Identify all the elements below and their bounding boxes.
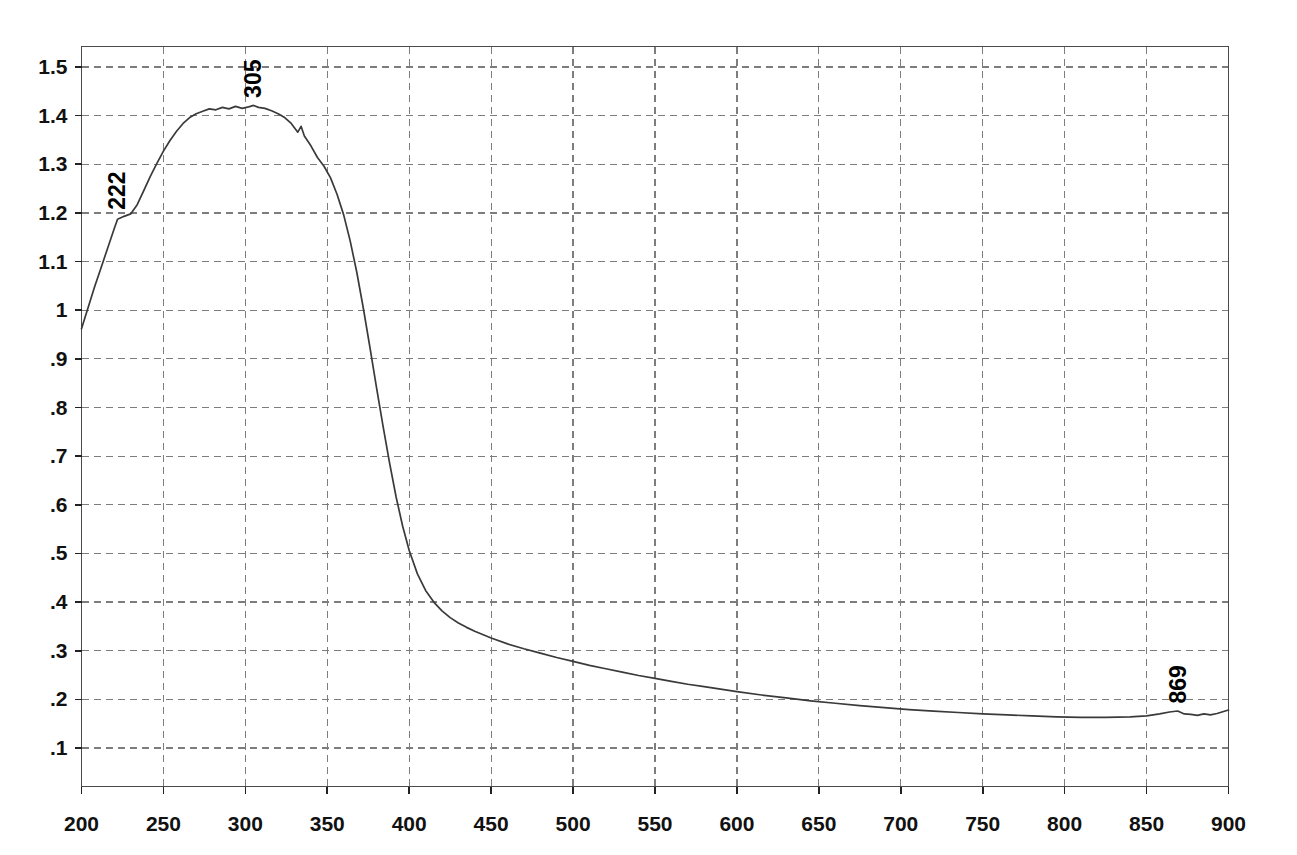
x-tick-label-750: 750: [965, 812, 1000, 835]
x-tick-label-500: 500: [556, 812, 591, 835]
x-tick-label-200: 200: [64, 812, 99, 835]
y-tick-label-1.2: 1.2: [38, 201, 67, 224]
y-tick-label-1.4: 1.4: [38, 104, 68, 127]
x-tick-label-350: 350: [310, 812, 345, 835]
y-tick-label-.6: .6: [50, 493, 68, 516]
y-tick-label-1.5: 1.5: [38, 55, 68, 78]
x-tick-label-900: 900: [1211, 812, 1246, 835]
x-tick-label-850: 850: [1129, 812, 1164, 835]
x-tick-label-450: 450: [474, 812, 509, 835]
spectrum-page: 2002503003504004505005506006507007508008…: [0, 0, 1297, 855]
x-tick-label-250: 250: [146, 812, 181, 835]
x-axis-tick-labels: 2002503003504004505005506006507007508008…: [64, 812, 1246, 835]
x-tick-label-600: 600: [719, 812, 754, 835]
peak-label-305: 305: [240, 59, 266, 98]
x-tick-label-800: 800: [1047, 812, 1082, 835]
grid-lines: [82, 47, 1229, 787]
peak-label-869: 869: [1165, 665, 1191, 703]
y-tick-label-.5: .5: [50, 541, 68, 564]
y-axis-tick-labels: .1.2.3.4.5.6.7.8.911.11.21.31.41.5: [38, 55, 68, 759]
x-tick-label-400: 400: [392, 812, 427, 835]
x-tick-label-700: 700: [883, 812, 918, 835]
peak-label-222: 222: [104, 171, 130, 209]
y-tick-label-.1: .1: [50, 736, 68, 759]
axis-ticks: [75, 67, 1229, 794]
uv-vis-spectrum-figure: 2002503003504004505005506006507007508008…: [0, 0, 1297, 855]
x-tick-label-300: 300: [228, 812, 263, 835]
x-tick-label-650: 650: [801, 812, 836, 835]
y-tick-label-.8: .8: [50, 396, 68, 419]
peak-annotations: 222305869: [104, 59, 1190, 703]
y-tick-label-.3: .3: [50, 639, 68, 662]
y-tick-label-.2: .2: [50, 687, 68, 710]
y-tick-label-.9: .9: [50, 347, 68, 370]
y-tick-label-1.3: 1.3: [38, 152, 67, 175]
x-tick-label-550: 550: [637, 812, 672, 835]
y-tick-label-1.1: 1.1: [38, 250, 68, 273]
y-tick-label-.4: .4: [50, 590, 68, 613]
y-tick-label-.7: .7: [50, 444, 68, 467]
y-tick-label-1: 1: [56, 298, 68, 321]
chart-canvas: 2002503003504004505005506006507007508008…: [0, 0, 1297, 855]
